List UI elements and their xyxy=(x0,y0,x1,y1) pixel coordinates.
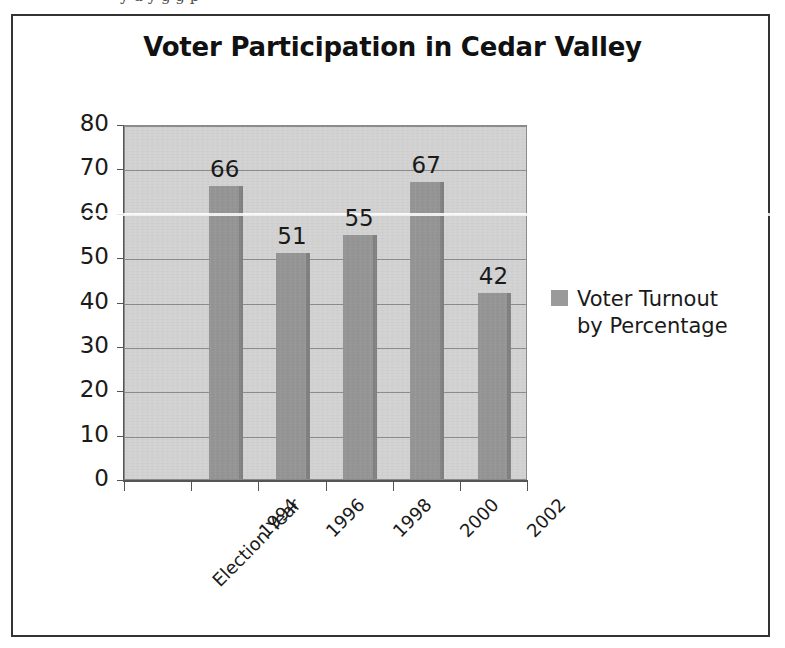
x-tick-label: 2002 xyxy=(523,494,570,541)
x-tick-mark xyxy=(124,482,125,491)
bar xyxy=(209,186,243,479)
x-tick-label: 2000 xyxy=(456,494,503,541)
legend-label-voter-turnout: Voter Turnout by Percentage xyxy=(577,286,747,340)
gridline xyxy=(125,392,526,393)
y-tick-label: 50 xyxy=(57,243,109,269)
y-tick-mark xyxy=(117,169,124,170)
bar xyxy=(478,293,512,479)
y-tick-mark xyxy=(117,391,124,392)
y-tick-mark xyxy=(117,347,124,348)
scan-edge-text: y u y g g p xyxy=(120,0,199,5)
x-tick-mark xyxy=(460,482,461,491)
x-tick-mark xyxy=(258,482,259,491)
bar xyxy=(410,182,444,479)
gridline xyxy=(125,259,526,260)
gridline xyxy=(125,170,526,171)
scan-edge-artifact: y u y g g p xyxy=(0,0,785,13)
y-tick-mark xyxy=(117,480,124,481)
y-tick-label: 10 xyxy=(57,421,109,447)
gridline xyxy=(125,215,526,216)
y-tick-label: 70 xyxy=(57,154,109,180)
gridline xyxy=(125,437,526,438)
y-tick-label: 30 xyxy=(57,332,109,358)
plot-area xyxy=(124,125,527,480)
scan-texture-overlay xyxy=(125,126,526,479)
x-tick-mark xyxy=(393,482,394,491)
y-tick-mark xyxy=(117,258,124,259)
bar-value-label: 67 xyxy=(396,152,456,178)
bar-value-label: 66 xyxy=(195,156,255,182)
y-tick-mark xyxy=(117,303,124,304)
bar-value-label: 55 xyxy=(329,205,389,231)
x-tick-mark xyxy=(527,482,528,491)
chart-title: Voter Participation in Cedar Valley xyxy=(13,32,772,62)
chart-frame: Voter Participation in Cedar Valley 6651… xyxy=(11,14,770,637)
bar xyxy=(276,253,310,479)
y-tick-label: 60 xyxy=(57,199,109,225)
gridline xyxy=(125,126,526,127)
x-tick-label: 1996 xyxy=(321,494,368,541)
x-tick-mark xyxy=(326,482,327,491)
y-tick-mark xyxy=(117,125,124,126)
gridline xyxy=(125,348,526,349)
y-tick-mark xyxy=(117,436,124,437)
y-tick-label: 40 xyxy=(57,288,109,314)
x-tick-mark xyxy=(191,482,192,491)
gridline xyxy=(125,304,526,305)
y-tick-label: 0 xyxy=(57,465,109,491)
legend-swatch-voter-turnout xyxy=(551,290,568,306)
x-tick-label: 1998 xyxy=(388,494,435,541)
y-tick-label: 20 xyxy=(57,376,109,402)
bar-value-label: 51 xyxy=(262,223,322,249)
y-tick-label: 80 xyxy=(57,110,109,136)
bar-value-label: 42 xyxy=(463,263,523,289)
y-tick-mark xyxy=(117,214,124,215)
bar xyxy=(343,235,377,479)
